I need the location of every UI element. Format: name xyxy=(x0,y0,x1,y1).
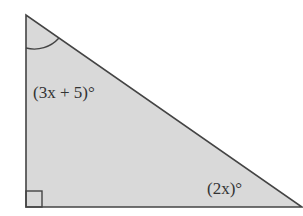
top-angle-label: (3x + 5)° xyxy=(33,84,95,101)
triangle-diagram: (3x + 5)° (2x)° xyxy=(0,0,303,216)
bottom-right-angle-label: (2x)° xyxy=(207,180,242,197)
triangle-figure xyxy=(0,0,303,216)
triangle-shape xyxy=(26,15,302,207)
